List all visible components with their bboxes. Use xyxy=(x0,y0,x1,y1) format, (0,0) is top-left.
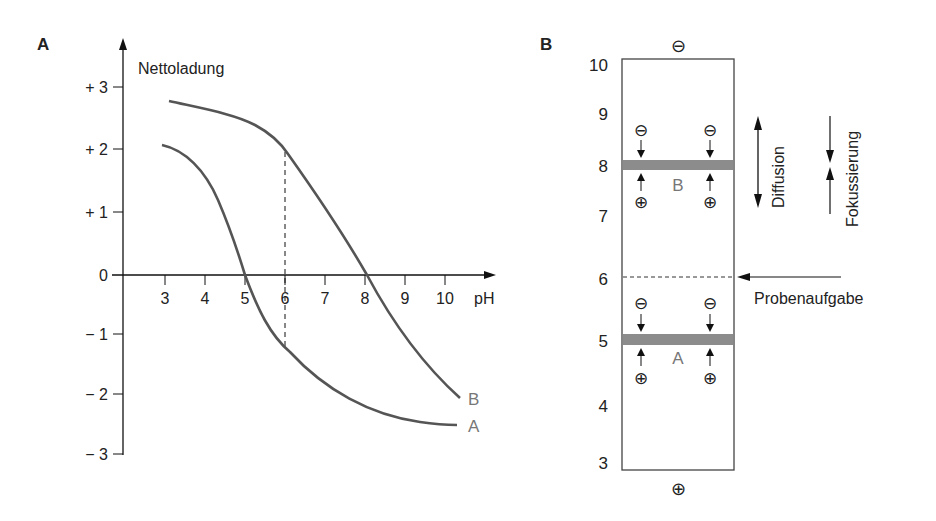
minus-charge-icon: ⊖ xyxy=(703,294,717,313)
plus-charge-icon: ⊕ xyxy=(634,369,648,388)
diffusion-arrow-icon xyxy=(754,116,762,208)
y-tick-label: + 3 xyxy=(85,79,108,96)
ph-scale-label: 3 xyxy=(599,454,608,473)
ph-scale: 10 9 8 7 6 5 4 3 xyxy=(589,56,608,473)
sample-application-label: Probenaufgabe xyxy=(754,290,864,307)
minus-charge-icon: ⊖ xyxy=(634,294,648,313)
plus-charge-icon: ⊕ xyxy=(703,193,717,212)
cathode-minus-icon: ⊖ xyxy=(671,36,686,56)
x-tick-label: 9 xyxy=(401,290,410,307)
x-axis-title: pH xyxy=(474,290,494,307)
band-a xyxy=(623,334,733,345)
band-a-label: A xyxy=(672,349,684,368)
x-axis-arrow-icon xyxy=(484,271,496,279)
ph-scale-label: 9 xyxy=(599,105,608,124)
x-tick-label: 10 xyxy=(436,290,454,307)
panel-a: A Nettoladung pH + 3 + 2 + 1 0 − 1 − 2 −… xyxy=(37,35,496,463)
curve-a-label: A xyxy=(468,417,480,436)
focusing-arrow-icon xyxy=(826,116,834,214)
y-tick-label: − 3 xyxy=(85,446,108,463)
panel-b: B 10 9 8 7 6 5 4 3 ⊖ ⊕ B A ⊖ ⊖ xyxy=(540,35,864,499)
focusing-label: Fokussierung xyxy=(844,131,861,227)
diffusion-label: Diffusion xyxy=(770,146,787,208)
ph-scale-label: 10 xyxy=(589,56,608,75)
x-tick-label: 3 xyxy=(161,290,170,307)
x-ticks xyxy=(165,275,445,285)
y-axis-arrow-icon xyxy=(119,38,127,50)
plus-charge-icon: ⊕ xyxy=(634,193,648,212)
ph-scale-label: 5 xyxy=(599,332,608,351)
y-tick-label: + 1 xyxy=(85,204,108,221)
y-tick-label: 0 xyxy=(99,267,108,284)
y-tick-label: − 1 xyxy=(85,326,108,343)
panel-a-label: A xyxy=(37,35,49,54)
y-tick-label: + 2 xyxy=(85,141,108,158)
plus-charge-icon: ⊕ xyxy=(703,369,717,388)
band-b xyxy=(623,160,733,170)
x-tick-label: 7 xyxy=(321,290,330,307)
sample-application-arrow-icon xyxy=(737,273,841,281)
curve-b xyxy=(169,101,460,398)
band-b-label: B xyxy=(672,176,683,195)
ph-scale-label: 8 xyxy=(599,157,608,176)
minus-charge-icon: ⊖ xyxy=(634,121,648,140)
curve-b-label: B xyxy=(468,390,479,409)
minus-charge-icon: ⊖ xyxy=(703,121,717,140)
x-tick-label: 4 xyxy=(201,290,210,307)
anode-plus-icon: ⊕ xyxy=(671,479,686,499)
panel-b-label: B xyxy=(540,35,552,54)
ph-scale-label: 7 xyxy=(599,207,608,226)
ph-scale-label: 4 xyxy=(599,397,608,416)
y-tick-label: − 2 xyxy=(85,386,108,403)
y-axis-title: Nettoladung xyxy=(138,60,224,77)
y-ticks: + 3 + 2 + 1 0 − 1 − 2 − 3 xyxy=(85,79,123,463)
x-tick-label: 8 xyxy=(361,290,370,307)
ph-scale-label: 6 xyxy=(599,270,608,289)
figure: A Nettoladung pH + 3 + 2 + 1 0 − 1 − 2 −… xyxy=(0,0,936,521)
x-tick-label: 5 xyxy=(241,290,250,307)
